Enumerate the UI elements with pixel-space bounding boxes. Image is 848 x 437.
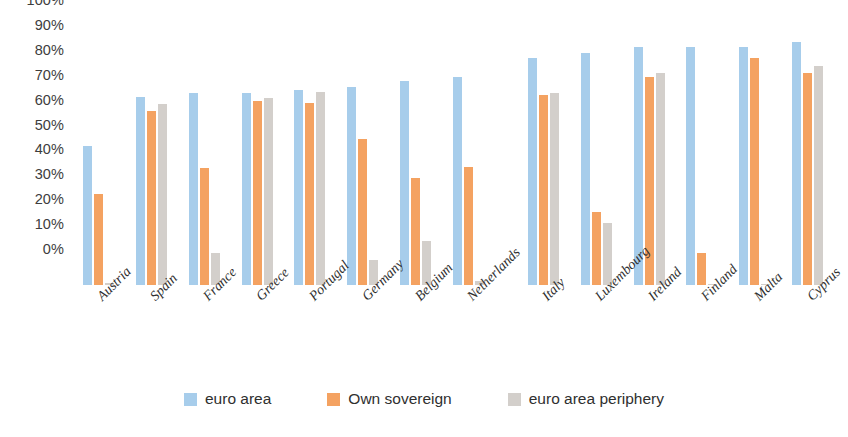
bar-group — [72, 36, 125, 285]
bar-euro-area-periphery — [316, 92, 325, 285]
bar-euro-area — [400, 81, 409, 285]
bar-group — [336, 36, 389, 285]
bar-group — [623, 36, 676, 285]
legend-item[interactable]: Own sovereign — [327, 390, 451, 408]
y-axis-tick-label: 70% — [35, 67, 64, 83]
y-axis-tick-label: 30% — [35, 166, 64, 182]
bar-group — [125, 36, 178, 285]
x-axis-label-slot: Cyprus — [781, 285, 834, 375]
legend-swatch-euro-area-periphery — [508, 393, 521, 406]
bar-group — [389, 36, 442, 285]
bar-group — [178, 36, 231, 285]
bar-own-sovereign — [200, 168, 209, 285]
y-axis-tick-label: 40% — [35, 141, 64, 157]
x-axis-label-slot: Portugal — [283, 285, 336, 375]
legend-item[interactable]: euro area — [184, 390, 271, 408]
bar-own-sovereign — [592, 212, 601, 285]
y-axis-tick-label: 0% — [43, 241, 64, 257]
y-axis-tick-label: 20% — [35, 191, 64, 207]
bar-euro-area — [453, 77, 462, 285]
bar-groups — [72, 36, 834, 285]
bar-group — [728, 36, 781, 285]
bar-group — [231, 36, 284, 285]
x-axis-label-slot: Greece — [231, 285, 284, 375]
x-axis-label-slot: Germany — [336, 285, 389, 375]
x-axis-label-slot: Italy — [517, 285, 570, 375]
chart-legend: euro areaOwn sovereigneuro area peripher… — [0, 390, 848, 408]
legend-label: euro area periphery — [529, 390, 664, 408]
bar-euro-area — [686, 47, 695, 285]
bar-euro-area-periphery — [550, 93, 559, 285]
y-axis-tick-label: 10% — [35, 216, 64, 232]
x-axis-label-slot: Malta — [728, 285, 781, 375]
legend-label: euro area — [205, 390, 271, 408]
bar-own-sovereign — [305, 103, 314, 285]
bar-euro-area — [189, 93, 198, 285]
bar-euro-area — [136, 97, 145, 285]
y-axis-tick-label: 80% — [35, 42, 64, 58]
bar-euro-area — [83, 146, 92, 285]
bar-group — [283, 36, 336, 285]
bar-own-sovereign — [147, 111, 156, 285]
bar-euro-area-periphery — [158, 104, 167, 285]
y-axis-tick-label: 90% — [35, 17, 64, 33]
bar-euro-area — [528, 58, 537, 285]
x-axis-label-slot: Belgium — [389, 285, 442, 375]
bar-euro-area — [581, 53, 590, 285]
x-axis-label-slot: Netherlands — [442, 285, 495, 375]
bar-own-sovereign — [253, 101, 262, 285]
y-axis: 100%90%80%70%60%50%40%30%20%10%0% — [0, 0, 72, 249]
bar-euro-area-periphery — [264, 98, 273, 285]
bar-own-sovereign — [697, 253, 706, 285]
x-axis-label-slot: Finland — [675, 285, 728, 375]
x-axis-label-slot: Spain — [125, 285, 178, 375]
y-axis-tick-label: 60% — [35, 92, 64, 108]
x-axis-label-slot: Luxembourg — [570, 285, 623, 375]
bar-own-sovereign — [94, 194, 103, 285]
y-axis-tick-label: 100% — [27, 0, 65, 8]
bar-euro-area — [792, 42, 801, 285]
grouped-bar-chart: 100%90%80%70%60%50%40%30%20%10%0% Austri… — [0, 0, 848, 437]
bar-euro-area — [294, 90, 303, 285]
bar-own-sovereign — [411, 178, 420, 285]
bar-own-sovereign — [750, 58, 759, 285]
legend-label: Own sovereign — [348, 390, 451, 408]
bar-own-sovereign — [803, 73, 812, 285]
x-axis-labels: AustriaSpainFranceGreecePortugalGermanyB… — [72, 285, 834, 375]
bar-own-sovereign — [539, 95, 548, 285]
bar-euro-area — [242, 93, 251, 285]
x-axis-label-slot: France — [178, 285, 231, 375]
bar-group — [442, 36, 495, 285]
x-axis-label-slot: Austria — [72, 285, 125, 375]
legend-item[interactable]: euro area periphery — [508, 390, 664, 408]
bar-euro-area — [347, 87, 356, 285]
bar-own-sovereign — [464, 167, 473, 285]
bar-euro-area — [739, 47, 748, 285]
bar-own-sovereign — [358, 139, 367, 285]
bar-group — [570, 36, 623, 285]
y-axis-tick-label: 50% — [35, 117, 64, 133]
x-axis-label-slot: Ireland — [623, 285, 676, 375]
bar-group — [675, 36, 728, 285]
legend-swatch-euro-area — [184, 393, 197, 406]
bar-group — [517, 36, 570, 285]
bar-euro-area-periphery — [656, 73, 665, 285]
bar-euro-area-periphery — [814, 66, 823, 285]
bar-group — [781, 36, 834, 285]
legend-swatch-own-sovereign — [327, 393, 340, 406]
